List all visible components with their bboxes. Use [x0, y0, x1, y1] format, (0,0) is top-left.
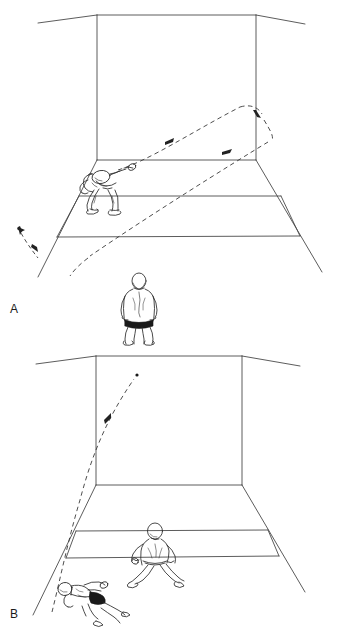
squash-court-technique-figure: A [0, 0, 337, 635]
panel-b-label: B [10, 607, 18, 621]
panel-a-label: A [10, 302, 18, 316]
figure-background [0, 0, 337, 635]
ball-impact-dot [135, 373, 138, 376]
